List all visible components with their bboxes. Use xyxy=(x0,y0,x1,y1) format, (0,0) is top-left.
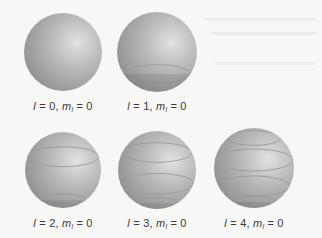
sphere-l3 xyxy=(116,129,198,211)
quantum-number-label: l = 2, ml = 0 xyxy=(33,217,92,230)
bleed-through-line xyxy=(205,18,317,21)
sphere-l0 xyxy=(22,11,104,93)
m-subscript: l xyxy=(165,223,167,230)
bleed-through-line xyxy=(215,62,315,65)
equals-sign: = xyxy=(39,217,46,229)
equals-sign: = xyxy=(76,217,83,229)
ml-value: 0 xyxy=(86,100,92,112)
sphere-l2 xyxy=(23,130,103,210)
ml-value: 0 xyxy=(180,100,186,112)
l-value: 3 xyxy=(143,217,149,229)
sphere-l1 xyxy=(115,10,199,94)
equals-sign: = xyxy=(170,100,177,112)
equals-sign: = xyxy=(39,100,46,112)
bleed-through-line xyxy=(210,32,318,35)
ml-value: 0 xyxy=(277,217,283,229)
l-symbol: l xyxy=(127,217,130,229)
quantum-number-label: l = 0, ml = 0 xyxy=(33,100,92,113)
l-value: 4 xyxy=(240,217,246,229)
l-value: 0 xyxy=(49,100,55,112)
ml-value: 0 xyxy=(180,217,186,229)
equals-sign: = xyxy=(76,100,83,112)
l-value: 2 xyxy=(49,217,55,229)
l-value: 1 xyxy=(143,100,149,112)
quantum-number-label: l = 4, ml = 0 xyxy=(224,217,283,230)
m-subscript: l xyxy=(262,223,264,230)
equals-sign: = xyxy=(230,217,237,229)
equals-sign: = xyxy=(133,217,140,229)
l-symbol: l xyxy=(33,100,36,112)
m-subscript: l xyxy=(71,223,73,230)
m-symbol: m xyxy=(253,217,262,229)
m-symbol: m xyxy=(62,217,71,229)
ml-value: 0 xyxy=(86,217,92,229)
m-symbol: m xyxy=(156,100,165,112)
l-symbol: l xyxy=(33,217,36,229)
quantum-number-label: l = 3, ml = 0 xyxy=(127,217,186,230)
m-symbol: m xyxy=(156,217,165,229)
equals-sign: = xyxy=(133,100,140,112)
l-symbol: l xyxy=(224,217,227,229)
m-subscript: l xyxy=(165,106,167,113)
equals-sign: = xyxy=(267,217,274,229)
sphere-l4 xyxy=(212,126,296,210)
m-subscript: l xyxy=(71,106,73,113)
quantum-number-label: l = 1, ml = 0 xyxy=(127,100,186,113)
equals-sign: = xyxy=(170,217,177,229)
l-symbol: l xyxy=(127,100,130,112)
m-symbol: m xyxy=(62,100,71,112)
